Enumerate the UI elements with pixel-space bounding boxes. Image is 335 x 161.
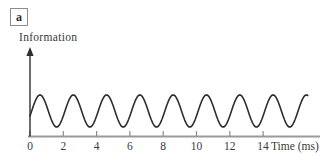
waveform-figure-panel-a: a Information 02468101214 Time (ms)	[0, 0, 335, 161]
x-tick-label: 4	[94, 140, 100, 152]
y-axis-arrowhead	[26, 47, 33, 56]
x-axis-label: Time (ms)	[271, 140, 319, 152]
x-tick-label: 2	[60, 140, 66, 152]
x-tick-label: 10	[191, 140, 203, 152]
x-tick-label: 8	[160, 140, 166, 152]
x-tick-label: 6	[127, 140, 133, 152]
information-waveform	[30, 95, 308, 127]
x-tick-label: 0	[27, 140, 33, 152]
x-tick-label: 14	[257, 140, 269, 152]
x-tick-label: 12	[224, 140, 236, 152]
sine-wave-plot	[0, 0, 335, 161]
